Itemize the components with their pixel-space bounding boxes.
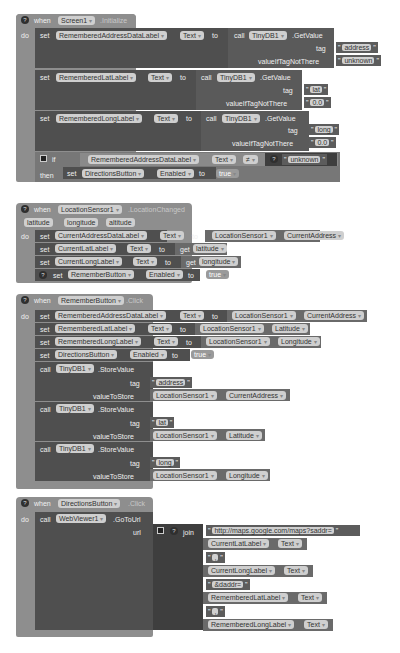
component-dropdown[interactable]: CurrentLongLabel▾ [208,566,275,575]
property-dropdown[interactable]: Text▾ [180,311,204,320]
string-literal-url[interactable]: " http://maps.google.com/maps?saddr= " [206,525,360,536]
property-dropdown[interactable]: Latitude▾ [272,324,308,333]
property-dropdown[interactable]: Latitude▾ [226,431,262,440]
string-literal-comma[interactable]: " , " [206,552,225,563]
property-dropdown[interactable]: Text▾ [133,257,157,266]
component-dropdown[interactable]: LocationSensor1▾ [153,431,217,440]
component-dropdown[interactable]: RememberedAddressDataLabel▾ [56,31,167,40]
string-literal[interactable]: " 0.0 " [309,137,336,148]
property-dropdown[interactable]: Enabled▾ [146,270,183,279]
param-altitude[interactable]: altitude [106,218,135,227]
tinydb-dropdown[interactable]: TinyDB1▾ [249,31,287,40]
component-dropdown[interactable]: CurrentLongLabel▾ [55,257,122,266]
variable-dropdown[interactable]: longitude▾ [199,257,238,266]
component-dropdown-screen1[interactable]: Screen1▾ [58,16,95,25]
to-keyword: to [199,169,205,178]
string-literal[interactable]: " unknown " [282,154,327,165]
component-dropdown[interactable]: DirectionsButton▾ [55,350,117,359]
join-block[interactable] [153,524,203,630]
property-dropdown[interactable]: Text▾ [284,566,308,575]
boolean-dropdown[interactable]: true▾ [191,350,214,359]
property-dropdown[interactable]: CurrentAddress▾ [304,311,364,320]
boolean-dropdown[interactable]: true▾ [216,169,239,178]
string-literal[interactable]: " long " [309,124,339,135]
webviewer-dropdown[interactable]: WebViewer1▾ [56,514,106,523]
property-dropdown[interactable]: Text▾ [212,155,236,164]
component-dropdown[interactable]: RememberedLatLabel▾ [56,73,136,82]
property-dropdown[interactable]: CurrentAddress▾ [284,231,344,240]
property-dropdown[interactable]: Text▾ [298,593,322,602]
string-literal-daddr[interactable]: " &daddr= " [206,579,250,590]
string-literal-comma[interactable]: " , " [206,606,225,617]
help-icon[interactable]: ? [270,155,278,163]
property-dropdown[interactable]: Text▾ [154,114,178,123]
property-dropdown[interactable]: Text▾ [148,73,172,82]
gear-icon[interactable] [157,527,164,534]
call-keyword: call [40,515,51,524]
component-dropdown[interactable]: LocationSensor1▾ [153,391,217,400]
property-dropdown[interactable]: Text▾ [148,324,172,333]
string-literal[interactable]: " 0.0 " [304,97,331,108]
gear-icon[interactable] [40,155,47,162]
tinydb-dropdown[interactable]: TinyDB1▾ [56,364,94,373]
component-dropdown[interactable]: RememberedAddressDataLabel▾ [88,155,199,164]
property-dropdown[interactable]: Text▾ [160,231,184,240]
component-dropdown[interactable]: RememberButton▾ [68,270,134,279]
component-dropdown[interactable]: LocationSensor1▾ [232,311,296,320]
property-dropdown[interactable]: Text▾ [127,244,151,253]
component-dropdown[interactable]: CurrentLatLabel▾ [208,539,269,548]
component-dropdown[interactable]: RememberedLatLabel▾ [208,593,288,602]
tinydb-dropdown[interactable]: TinyDB1▾ [56,404,94,413]
string-literal[interactable]: " unknown " [336,55,381,66]
component-dropdown[interactable]: LocationSensor1▾ [200,324,264,333]
property-dropdown[interactable]: Text▾ [154,337,178,346]
string-literal[interactable]: " lat " [150,417,174,428]
property-dropdown[interactable]: Text▾ [278,539,302,548]
component-dropdown[interactable]: LocationSensor1▾ [206,337,270,346]
component-dropdown[interactable]: LocationSensor1▾ [153,471,217,480]
help-icon[interactable]: ? [39,271,47,279]
component-dropdown-locationsensor1[interactable]: LocationSensor1▾ [58,205,122,214]
param-latitude[interactable]: latitude [24,218,53,227]
property-dropdown[interactable]: Enabled▾ [157,169,194,178]
tag-label: tag [130,419,140,428]
property-dropdown[interactable]: CurrentAddress▾ [226,391,286,400]
string-literal[interactable]: " lat " [304,84,328,95]
property-dropdown[interactable]: Text▾ [304,620,328,629]
call-keyword: call [206,114,217,123]
compare-operator-dropdown[interactable]: ≠▾ [243,155,258,164]
help-icon[interactable]: ? [21,296,29,304]
to-keyword: to [212,312,218,321]
param-longitude[interactable]: longitude [64,218,98,227]
property-dropdown[interactable]: Longitude▾ [278,337,320,346]
property-dropdown[interactable]: Text▾ [180,31,204,40]
variable-dropdown[interactable]: latitude▾ [193,244,227,253]
value-to-store-label: valueToStore [93,392,134,401]
property-dropdown[interactable]: Longitude▾ [226,471,268,480]
component-dropdown-rememberbutton[interactable]: RememberButton▾ [58,296,124,305]
component-dropdown[interactable]: DirectionsButton▾ [82,169,144,178]
string-literal[interactable]: " address " [150,377,192,388]
component-dropdown[interactable]: CurrentAddressDataLabel▾ [55,231,147,240]
property-dropdown[interactable]: Enabled▾ [130,350,167,359]
help-icon[interactable]: ? [21,205,29,213]
tinydb-dropdown[interactable]: TinyDB1▾ [56,444,94,453]
component-dropdown[interactable]: CurrentLatLabel▾ [55,244,116,253]
to-keyword: to [186,114,192,123]
help-icon[interactable]: ? [21,499,29,507]
help-icon[interactable]: ? [170,527,178,535]
tinydb-dropdown[interactable]: TinyDB1▾ [222,114,260,123]
component-dropdown[interactable]: RememberedAddressDataLabel▾ [55,311,166,320]
help-icon[interactable]: ? [21,16,29,24]
tinydb-dropdown[interactable]: TinyDB1▾ [217,73,255,82]
string-literal[interactable]: " address " [336,42,378,53]
component-dropdown[interactable]: RememberedLongLabel▾ [55,337,141,346]
component-dropdown[interactable]: LocationSensor1▾ [212,231,276,240]
component-dropdown[interactable]: RememberedLongLabel▾ [208,620,294,629]
component-dropdown[interactable]: RememberedLongLabel▾ [56,114,142,123]
component-dropdown-directionsbutton[interactable]: DirectionsButton▾ [58,499,120,508]
string-literal[interactable]: " long " [150,457,180,468]
boolean-dropdown[interactable]: true▾ [206,270,229,279]
set-keyword: set [40,73,49,82]
component-dropdown[interactable]: RememberedLatLabel▾ [55,324,135,333]
